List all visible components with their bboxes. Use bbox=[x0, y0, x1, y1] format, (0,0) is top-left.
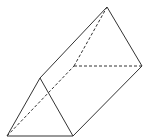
edge-back-right bbox=[107, 7, 142, 66]
triangular-prism-diagram bbox=[0, 0, 146, 137]
edge-front-right bbox=[40, 78, 73, 136]
hidden-edge-bottom-left-long bbox=[7, 66, 74, 136]
edge-top-ridge bbox=[40, 7, 107, 78]
edge-bottom-right-long bbox=[73, 66, 142, 136]
